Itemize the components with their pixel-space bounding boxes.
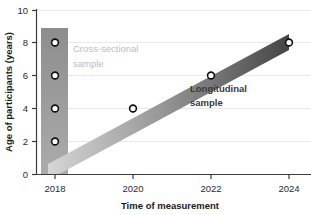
y-tick-label-8: 8 [23, 37, 28, 48]
longitudinal-annotation-line1: Longitudinal [190, 83, 247, 94]
y-tick-label-0: 0 [23, 169, 28, 180]
cross-sectional-annotation-line1: Cross-sectional [73, 43, 138, 54]
longitudinal-annotation-line2: sample [190, 97, 223, 108]
y-tick-label-10: 10 [17, 5, 28, 16]
y-tick-label-4: 4 [23, 103, 28, 114]
x-tick-label-2020: 2020 [122, 183, 143, 194]
x-tick-label-2018: 2018 [44, 183, 65, 194]
cross-sectional-band-rect [41, 28, 68, 174]
x-axis-title: Time of measurement [121, 200, 220, 211]
data-point [208, 72, 215, 79]
data-point [286, 39, 293, 46]
data-point [52, 39, 59, 46]
y-tick-label-2: 2 [23, 136, 28, 147]
data-point [52, 72, 59, 79]
cross-sectional-annotation-line2: sample [73, 58, 104, 69]
y-axis-title: Age of participants (years) [3, 32, 14, 152]
chart-canvas: 10 8 6 4 2 0 2018 2020 2022 2024 Age of … [0, 0, 311, 215]
chart-figure: 10 8 6 4 2 0 2018 2020 2022 2024 Age of … [0, 0, 311, 215]
data-point [130, 105, 137, 112]
x-tick-label-2024: 2024 [278, 183, 299, 194]
cross-sectional-band [41, 28, 68, 174]
data-point [52, 105, 59, 112]
x-tick-label-2022: 2022 [200, 183, 221, 194]
y-tick-label-6: 6 [23, 70, 28, 81]
data-point [52, 138, 59, 145]
